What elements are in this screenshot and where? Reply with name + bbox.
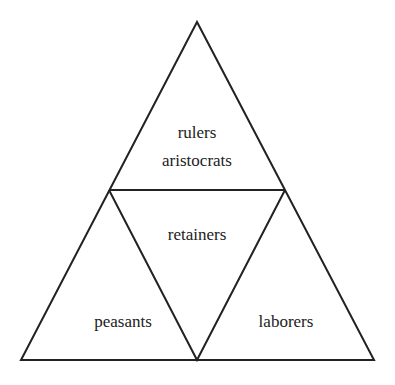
hierarchy-triangle-diagram: rulers aristocrats retainers peasants la… [0, 0, 395, 385]
bottom-right-section-label: laborers [259, 312, 314, 331]
center-section-label: retainers [168, 225, 227, 244]
inner-inverted-triangle [109, 190, 285, 360]
top-section-label-rulers: rulers [178, 123, 217, 142]
top-section-label-aristocrats: aristocrats [162, 151, 232, 170]
bottom-left-section-label: peasants [94, 312, 152, 331]
